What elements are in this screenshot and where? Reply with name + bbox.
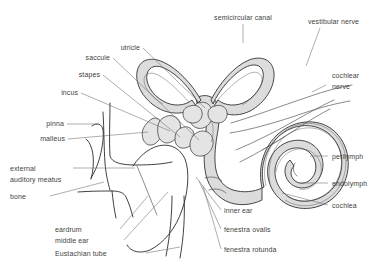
label-middle-ear: middle ear [55,237,89,244]
pinna-inner-shape [86,139,93,179]
label-external-line2: auditory meatus [10,176,62,184]
label-inner-ear: inner ear [224,207,253,214]
label-incus: incus [61,89,78,96]
label-cochlea: cochlea [332,202,357,209]
label-eardrum: eardrum [55,226,82,233]
label-external-line1: external [10,165,36,172]
eustachian-tube-upper-wall [166,196,172,256]
label-semicircular-canal: semicircular canal [214,14,272,21]
semicircular-canal-left-loop [137,59,201,113]
label-cochlear-nerve-line2: nerve [332,83,350,90]
leader-eustachian-tube [146,247,180,253]
label-endolymph: endolymph [332,180,367,188]
ear-canal-lower-wall [103,112,110,190]
label-malleus: malleus [40,135,65,142]
leader-vestibular-nerve [306,28,320,66]
leader-malleus [68,132,148,139]
diagram-canvas: semicircular canal vestibular nerve coch… [0,0,382,268]
ampulla-right [208,105,227,123]
cochlea-apex [293,163,297,176]
middle-ear-group [127,145,188,258]
label-fenestra-ovalis: fenestra ovalis [224,226,271,233]
nerve-group [230,85,352,162]
ampulla-left [183,105,202,123]
label-saccule: saccule [86,54,110,61]
label-bone: bone [10,193,26,200]
label-cochlear-nerve-line1: cochlear [332,72,360,79]
leader-eardrum [120,196,148,229]
label-utricle: utricle [121,44,140,51]
tympanic-cavity-outline [127,145,188,252]
bone-edge [112,191,116,218]
temporal-bone-outline [78,191,133,217]
label-fenestra-rotunda: fenestra rotunda [224,246,277,253]
label-eustachian-tube: Eustachian tube [55,250,107,257]
leader-cochlear-nerve [312,85,326,92]
ear-anatomy-diagram: semicircular canal vestibular nerve coch… [0,0,382,268]
label-perilymph: perilymph [332,153,363,161]
label-stapes: stapes [79,71,101,79]
leader-bone [50,182,104,196]
leader-middle-ear [124,192,168,240]
label-vestibular-nerve: vestibular nerve [308,18,359,25]
label-pinna: pinna [46,120,64,128]
